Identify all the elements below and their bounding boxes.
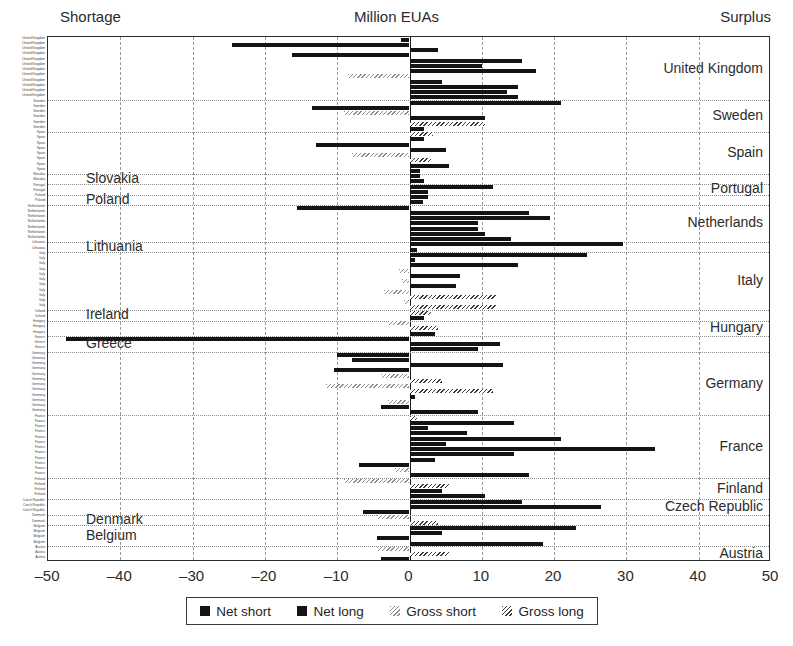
y-tick-label: Portugal <box>33 189 45 192</box>
y-tick-label: Netherlands <box>28 215 45 218</box>
bar <box>334 368 410 372</box>
bar <box>410 426 428 430</box>
legend-label: Gross long <box>518 604 583 619</box>
bar <box>399 269 410 273</box>
y-tick-label: Finland <box>35 493 45 496</box>
group-separator <box>48 100 769 101</box>
bar <box>410 332 435 336</box>
y-tick-label: Italy <box>39 304 45 307</box>
y-tick-label: Finland <box>35 483 45 486</box>
y-tick-label: Germany <box>32 357 45 360</box>
y-tick-label: Portugal <box>33 184 45 187</box>
y-tick-label: United Kingdom <box>22 52 45 55</box>
y-tick-label: Denmark <box>32 520 45 523</box>
y-tick-label: United Kingdom <box>22 63 45 66</box>
bar <box>410 542 544 546</box>
y-tick-label: Hungary <box>33 331 45 334</box>
bar <box>410 132 433 136</box>
y-tick-label: Germany <box>32 409 45 412</box>
y-tick-label: Belgium <box>33 535 45 538</box>
bar <box>410 437 562 441</box>
bar <box>410 85 518 89</box>
y-tick-label: Germany <box>32 373 45 376</box>
y-tick-label: Italy <box>39 257 45 260</box>
plot-area: United KingdomSwedenSpainSlovakiaPortuga… <box>47 36 770 561</box>
bar <box>344 479 409 483</box>
bar <box>388 400 410 404</box>
bar <box>410 174 421 178</box>
bar <box>410 526 576 530</box>
bar <box>312 106 410 110</box>
bar <box>410 473 529 477</box>
y-tick-label: Poland <box>35 199 45 202</box>
bar <box>410 169 421 173</box>
bar <box>410 305 497 309</box>
y-tick-label: Hungary <box>33 325 45 328</box>
bar <box>410 431 468 435</box>
gridline <box>337 37 338 560</box>
y-tick-label: Hungary <box>33 320 45 323</box>
y-tick-label: Italy <box>39 294 45 297</box>
y-tick-label: Sweden <box>33 110 45 113</box>
bar <box>410 64 482 68</box>
y-tick-label: Netherlands <box>28 226 45 229</box>
y-tick-label: Austria <box>35 551 45 554</box>
y-tick-label: France <box>35 462 45 465</box>
bar <box>410 195 428 199</box>
bar <box>410 221 479 225</box>
bar <box>410 48 439 52</box>
bar <box>410 531 443 535</box>
y-tick-label: Germany <box>32 399 45 402</box>
country-label-portugal: Portugal <box>711 180 763 196</box>
bar <box>410 200 423 204</box>
country-label-hungary: Hungary <box>710 319 763 335</box>
bar <box>337 353 409 357</box>
country-label-belgium: Belgium <box>86 527 137 543</box>
y-tick-label: Belgium <box>33 541 45 544</box>
bar <box>410 127 424 131</box>
y-tick-label: Czech Republic <box>23 504 45 507</box>
country-label-netherlands: Netherlands <box>688 214 764 230</box>
y-tick-label: Sweden <box>33 100 45 103</box>
country-label-finland: Finland <box>717 480 763 496</box>
bar <box>377 547 410 551</box>
country-label-united-kingdom: United Kingdom <box>663 60 763 76</box>
bar <box>410 242 623 246</box>
y-tick-label: Sweden <box>33 126 45 129</box>
legend-label: Net long <box>313 604 363 619</box>
x-tick-label: 40 <box>689 567 706 584</box>
y-tick-label: Italy <box>39 289 45 292</box>
y-tick-label: Germany <box>32 362 45 365</box>
y-tick-label: Greece <box>34 341 45 344</box>
y-tick-label: Czech Republic <box>23 509 45 512</box>
gridline <box>193 37 194 560</box>
y-tick-label: Lithuania <box>32 241 45 244</box>
bar <box>410 284 457 288</box>
y-tick-label: France <box>35 415 45 418</box>
y-tick-label: Spain <box>37 163 45 166</box>
country-label-france: France <box>719 438 763 454</box>
x-tick-label: 50 <box>762 567 779 584</box>
bar <box>410 395 416 399</box>
y-tick-label: France <box>35 472 45 475</box>
bar <box>410 190 428 194</box>
bar <box>410 342 500 346</box>
y-tick-label: France <box>35 457 45 460</box>
gridline <box>699 37 700 560</box>
y-tick-label: Spain <box>37 131 45 134</box>
group-separator <box>48 310 769 311</box>
x-tick-label: –30 <box>179 567 204 584</box>
bar <box>410 363 504 367</box>
y-axis-tick-labels: United KingdomUnited KingdomUnited Kingd… <box>0 36 46 561</box>
bar <box>410 122 486 126</box>
y-tick-label: Sweden <box>33 121 45 124</box>
legend-swatch-icon <box>390 606 400 616</box>
y-tick-label: France <box>35 467 45 470</box>
y-tick-label: Ireland <box>35 315 45 318</box>
bar <box>410 90 508 94</box>
bar <box>410 227 479 231</box>
bar <box>410 347 479 351</box>
bar <box>410 442 446 446</box>
group-separator <box>48 242 769 243</box>
y-tick-label: Denmark <box>32 514 45 517</box>
